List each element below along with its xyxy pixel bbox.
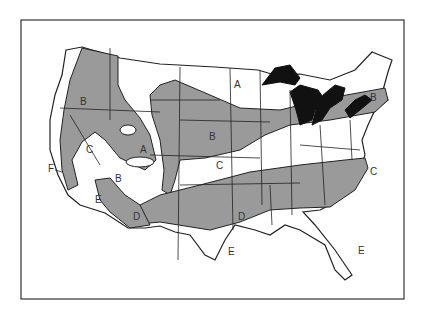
- label-b-southwest: B: [115, 173, 122, 184]
- label-c-west: C: [86, 144, 93, 155]
- label-e-southwest: E: [95, 194, 102, 205]
- label-c-central: C: [216, 160, 223, 171]
- label-b-central: B: [209, 131, 216, 142]
- label-e-texas: E: [228, 246, 235, 257]
- label-c-east: C: [370, 166, 377, 177]
- label-d-southwest: D: [133, 211, 140, 222]
- zone-a-island-1: [120, 125, 136, 135]
- us-zone-map: A B A B C C F B E D D E E B C: [0, 0, 443, 318]
- label-f-coast: F: [48, 163, 54, 174]
- label-e-florida: E: [358, 245, 365, 256]
- label-b-northwest: B: [80, 96, 87, 107]
- label-a-north: A: [234, 79, 241, 90]
- label-a-west: A: [140, 144, 147, 155]
- zone-a-island-2: [126, 157, 154, 167]
- label-d-south: D: [238, 211, 245, 222]
- label-b-northeast: B: [370, 92, 377, 103]
